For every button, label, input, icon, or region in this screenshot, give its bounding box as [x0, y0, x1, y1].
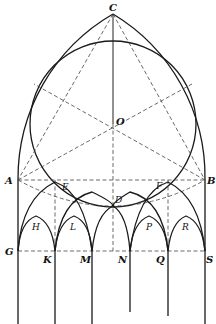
label-G: G — [5, 246, 14, 257]
label-O: O — [116, 116, 125, 127]
label-N: N — [117, 254, 128, 265]
label-L: L — [69, 222, 76, 232]
arch-N-F-S — [130, 182, 205, 251]
label-H: H — [31, 222, 40, 232]
construction-lines — [18, 14, 205, 251]
line-B-through-O — [34, 84, 205, 180]
label-Q: Q — [156, 254, 165, 265]
label-K: K — [42, 254, 53, 265]
label-S: S — [206, 254, 213, 265]
label-D: D — [114, 195, 122, 205]
label-R: R — [181, 222, 189, 232]
small-arches — [18, 216, 205, 251]
label-E: E — [61, 182, 69, 192]
label-P: P — [145, 222, 153, 232]
gothic-arch-diagram: C O A B E F D H L P R G K M N Q S — [0, 0, 216, 324]
label-M: M — [79, 254, 92, 265]
arc-ADB — [18, 180, 205, 206]
arch-M-D-N — [92, 206, 130, 251]
columns — [55, 251, 168, 324]
main-pointed-arch — [18, 14, 205, 324]
line-A-through-O — [18, 84, 192, 180]
label-F: F — [155, 181, 163, 191]
line-CA — [18, 14, 113, 180]
secondary-arches — [18, 182, 205, 251]
label-A: A — [4, 175, 13, 186]
label-B: B — [206, 175, 215, 186]
arch-K-D — [55, 192, 113, 251]
label-C: C — [109, 2, 117, 13]
